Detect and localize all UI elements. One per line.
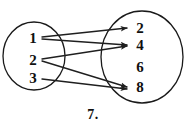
codomain-element-2-0: 2: [136, 20, 144, 36]
codomain-element-6-2: 6: [136, 59, 144, 75]
codomain-labels: 2468: [136, 20, 144, 95]
codomain-element-4-1: 4: [136, 37, 144, 53]
codomain-element-8-3: 8: [136, 79, 144, 95]
domain-element-3-2: 3: [29, 70, 37, 86]
mapping-arrows: [42, 28, 127, 89]
domain-element-1-0: 1: [29, 30, 37, 46]
arrow-1-to-2: [42, 28, 127, 37]
domain-labels: 123: [29, 30, 37, 86]
arrow-2-to-4: [42, 46, 127, 59]
mapping-diagram: 123 2468 7.: [0, 0, 187, 127]
domain-element-2-1: 2: [29, 52, 37, 68]
figure-container: 123 2468 7.: [0, 0, 187, 127]
arrow-2-to-8: [42, 61, 127, 87]
arrow-1-to-4: [42, 39, 127, 45]
figure-caption: 7.: [87, 107, 99, 122]
arrow-3-to-8: [42, 79, 127, 89]
